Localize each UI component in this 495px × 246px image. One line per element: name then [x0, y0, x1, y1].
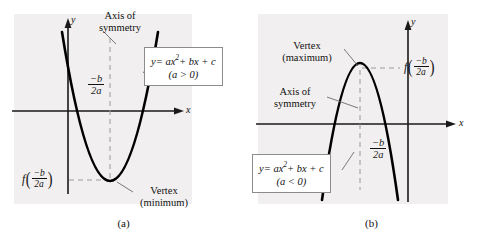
panel-b-axis-of-symmetry-line2: symmetry [274, 98, 316, 109]
panel-a-function-name: f [22, 173, 25, 185]
panel-a-x-axis-label: x [186, 104, 190, 115]
panel-a-y-axis-label: y [71, 14, 75, 25]
panel-a-axis-value-numerator: −b [88, 73, 104, 85]
panel-a-equation-box: y= ax2+ bx + c (a > 0) [144, 47, 223, 86]
panel-b-axis-value-denominator: 2a [370, 149, 386, 160]
panel-a: x y Axis of symmetry −b 2a y= ax2+ bx + … [0, 0, 247, 246]
panel-a-function-value-denominator: 2a [32, 179, 47, 189]
panel-b-vertex-line1: Vertex [293, 40, 320, 51]
panel-b-condition: (a < 0) [259, 175, 324, 188]
panel-a-vertex-line1: Vertex [150, 185, 177, 196]
panel-b-function-value-denominator: 2a [414, 67, 429, 77]
panel-a-function-value-numerator: −b [32, 168, 47, 179]
panel-a-graph [0, 0, 247, 246]
panel-b-open-paren: ( [408, 61, 413, 73]
panel-a-axis-of-symmetry-line1: Axis of [104, 10, 135, 21]
panel-b-equation-box: y= ax2+ bx + c (a < 0) [252, 154, 331, 193]
panel-a-axis-value-denominator: 2a [88, 85, 104, 96]
panel-a-vertex-label: Vertex (minimum) [130, 185, 198, 209]
panel-b-function-name: f [404, 61, 407, 73]
panel-a-axis-of-symmetry-line2: symmetry [99, 22, 141, 33]
panel-b-axis-value-numerator: −b [370, 137, 386, 149]
quadratic-functions-figure: x y Axis of symmetry −b 2a y= ax2+ bx + … [0, 0, 495, 246]
panel-b-axis-of-symmetry-line1: Axis of [279, 86, 310, 97]
panel-b-x-axis-label: x [459, 117, 463, 128]
panel-b-function-value-numerator: −b [414, 56, 429, 67]
panel-a-caption: (a) [0, 217, 247, 229]
panel-b: x y Vertex (maximum) Axis of symmetry f … [248, 0, 495, 246]
panel-b-caption: (b) [248, 217, 495, 229]
panel-a-axis-value-fraction: −b 2a [88, 73, 104, 96]
panel-b-close-paren: ) [429, 61, 434, 73]
panel-b-equation: y= ax2+ bx + c [259, 158, 324, 175]
panel-b-axis-value-fraction: −b 2a [370, 137, 386, 160]
panel-a-open-paren: ( [26, 173, 31, 185]
panel-a-vertex-line2: (minimum) [140, 197, 188, 208]
panel-a-function-value-label: f ( −b 2a ) [22, 168, 53, 189]
panel-b-graph [248, 0, 495, 246]
panel-b-vertex-line2: (maximum) [282, 52, 332, 63]
panel-b-function-value-label: f ( −b 2a ) [404, 56, 435, 77]
panel-a-condition: (a > 0) [151, 68, 216, 81]
panel-a-close-paren: ) [47, 173, 52, 185]
panel-a-axis-of-symmetry-label: Axis of symmetry [79, 10, 161, 34]
panel-b-vertex-label: Vertex (maximum) [268, 40, 346, 64]
panel-b-y-axis-label: y [411, 16, 415, 27]
panel-a-equation: y= ax2+ bx + c [151, 51, 216, 68]
panel-b-axis-of-symmetry-label: Axis of symmetry [262, 86, 328, 110]
